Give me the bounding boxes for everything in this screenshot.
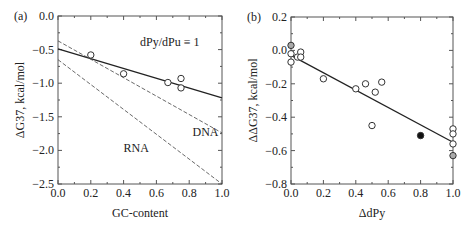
x-tick-label: 0.4 (116, 186, 131, 200)
x-tick-label: 0.2 (316, 186, 331, 200)
data-point (369, 122, 375, 128)
data-point (298, 54, 304, 60)
y-tick-label: −2.5 (32, 177, 54, 191)
data-point (288, 59, 294, 65)
data-point (288, 42, 294, 48)
x-tick-label: 1.0 (446, 186, 461, 200)
y-tick-label: −0.6 (265, 144, 287, 158)
y-axis-label: ΔG37, kcal/mol (13, 61, 27, 138)
y-tick-label: 0.0 (39, 9, 54, 23)
data-point (165, 79, 171, 85)
x-tick-label: 0.8 (182, 186, 197, 200)
line-label: RNA (124, 141, 150, 155)
line-label: DNA (192, 125, 218, 139)
data-point (417, 132, 423, 138)
y-tick-label: −0.5 (32, 43, 54, 57)
figure: 0.00.20.40.60.81.00.0−0.5−1.0−1.5−2.0−2.… (0, 0, 473, 229)
x-tick-label: 0.6 (381, 186, 396, 200)
plot-frame (291, 17, 453, 184)
data-point (178, 75, 184, 81)
y-tick-label: −0.4 (265, 110, 287, 124)
panel-label: (a) (14, 9, 27, 23)
line-fit (58, 49, 222, 98)
data-point (353, 86, 359, 92)
y-tick-label: 0.0 (272, 43, 287, 57)
panel-b: 0.00.20.40.60.81.00.20.0−0.2−0.4−0.6−0.8… (246, 10, 461, 220)
y-tick-label: −0.2 (265, 77, 287, 91)
data-point (372, 89, 378, 95)
data-point (450, 141, 456, 147)
data-point (320, 76, 326, 82)
x-axis-label: GC-content (112, 206, 169, 220)
x-tick-label: 1.0 (215, 186, 230, 200)
y-tick-label: 0.2 (272, 10, 287, 24)
data-point (178, 85, 184, 91)
x-tick-label: 0.4 (348, 186, 363, 200)
panel-label: (b) (247, 10, 261, 24)
x-tick-label: 0.2 (83, 186, 98, 200)
y-tick-label: −0.8 (265, 177, 287, 191)
y-axis-label: ΔΔG37, kcal/mol (246, 58, 260, 143)
data-point (379, 79, 385, 85)
y-tick-label: −1.5 (32, 110, 54, 124)
y-tick-label: −2.0 (32, 143, 54, 157)
data-point (450, 131, 456, 137)
data-point (88, 52, 94, 58)
line-dna (58, 41, 222, 133)
data-point (450, 152, 456, 158)
data-point (288, 51, 294, 57)
y-tick-label: −1.0 (32, 76, 54, 90)
annotation: dPy/dPu ≡ 1 (140, 35, 199, 49)
data-point (362, 81, 368, 87)
line-rna (58, 60, 222, 184)
x-tick-label: 0.6 (149, 186, 164, 200)
data-point (120, 71, 126, 77)
x-tick-label: 0.8 (413, 186, 428, 200)
panel-a: 0.00.20.40.60.81.00.0−0.5−1.0−1.5−2.0−2.… (13, 9, 230, 220)
x-axis-label: ΔdPy (359, 206, 385, 220)
